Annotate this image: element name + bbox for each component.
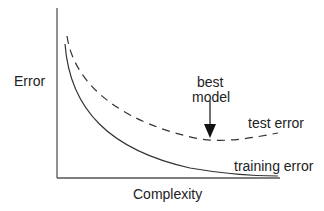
best-model-label-line2: model [192,89,230,105]
best-model-arrow-icon [204,101,216,138]
y-axis-label: Error [14,73,45,89]
diagram-canvas [0,0,324,211]
best-model-label-line1: best [197,74,223,90]
axes [57,8,280,178]
x-axis-label: Complexity [133,186,202,202]
test-error-curve [67,36,278,140]
test-error-label: test error [248,115,304,131]
training-error-curve [65,44,278,176]
training-error-label: training error [234,158,313,174]
